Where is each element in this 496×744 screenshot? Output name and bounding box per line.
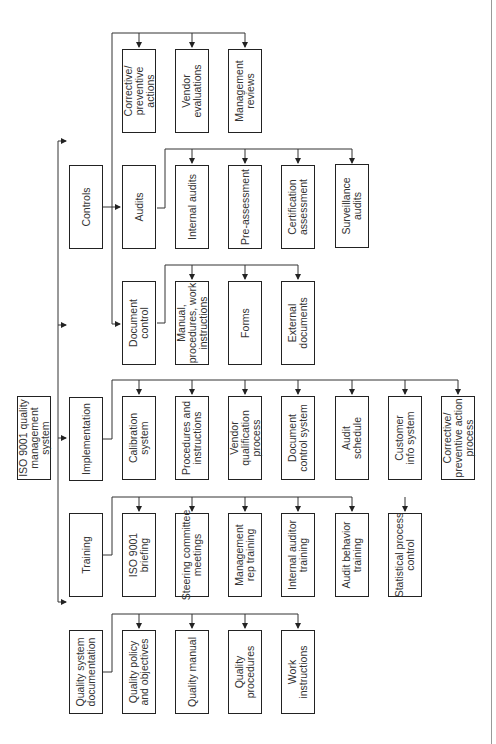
node-quality-manual: Quality manual [175, 630, 209, 714]
node-corrective-preventive-actions: Corrective/ preventive actions [122, 49, 156, 133]
node-quality-policy: Quality policy and objectives [122, 630, 156, 714]
node-label: Audit behavior training [341, 521, 363, 588]
node-label: Quality procedures [234, 646, 256, 699]
node-quality-procedures: Quality procedures [228, 630, 262, 714]
node-label: Management rep training [234, 524, 256, 585]
node-label: Corrective/ preventive action process [442, 398, 475, 477]
node-audit-behavior-training: Audit behavior training [335, 513, 369, 597]
node-label: Internal auditor training [287, 520, 309, 590]
node-label: Internal audits [187, 174, 198, 240]
node-audits: Audits [122, 165, 156, 249]
node-root: ISO 9001 quality management system [17, 396, 51, 480]
node-label: Pre-assessment [240, 169, 251, 245]
node-label: Surveillance audits [341, 177, 363, 234]
node-label: Document control system [287, 404, 309, 472]
node-label: Audits [134, 192, 145, 221]
node-iso-briefing: ISO 9001 briefing [122, 513, 156, 597]
node-work-instructions: Work instructions [281, 630, 315, 714]
node-label: Quality policy and objectives [128, 638, 150, 705]
node-document-control-system: Document control system [281, 396, 315, 480]
node-vendor-qualification: Vendor qualification process [228, 396, 262, 480]
node-label: ISO 9001 quality management system [18, 399, 51, 477]
node-training: Training [69, 513, 103, 597]
node-external-documents: External documents [281, 281, 315, 365]
page-edge-line [491, 0, 492, 744]
node-label: Certification assessment [287, 179, 309, 235]
org-chart-diagram: ISO 9001 quality management system Quali… [0, 0, 496, 744]
node-controls: Controls [69, 165, 103, 249]
node-management-reviews: Management reviews [228, 49, 262, 133]
node-label: Management reviews [234, 60, 256, 121]
node-quality-system-documentation: Quality system documentation [69, 630, 103, 714]
node-audit-schedule: Audit schedule [335, 396, 369, 480]
node-calibration-system: Calibration system [122, 396, 156, 480]
node-management-rep-training: Management rep training [228, 513, 262, 597]
node-label: Audit schedule [341, 417, 363, 459]
node-label: External documents [287, 297, 309, 348]
node-surveillance-audits: Surveillance audits [335, 164, 369, 248]
node-label: Document control [128, 299, 150, 347]
node-label: Statistical process control [394, 513, 416, 598]
node-customer-info-system: Customer info system [388, 396, 422, 480]
node-steering-committee: Steering committee meetings [175, 513, 209, 597]
node-pre-assessment: Pre-assessment [228, 165, 262, 249]
node-document-control: Document control [122, 281, 156, 365]
node-certification-assessment: Certification assessment [281, 165, 315, 249]
node-implementation: Implementation [69, 397, 103, 481]
node-label: Calibration system [128, 413, 150, 463]
node-internal-auditor-training: Internal auditor training [281, 513, 315, 597]
node-corrective-preventive-process: Corrective/ preventive action process [441, 396, 475, 480]
node-internal-audits: Internal audits [175, 165, 209, 249]
node-manual-procedures: Manual, procedures, work instructions [175, 281, 209, 365]
node-label: ISO 9001 briefing [128, 533, 150, 577]
node-label: Quality system documentation [75, 638, 97, 707]
node-label: Work instructions [287, 645, 309, 698]
node-label: Vendor qualification process [229, 410, 262, 465]
node-label: Corrective/ preventive actions [123, 66, 156, 117]
node-statistical-process-control: Statistical process control [388, 513, 422, 597]
node-label: Controls [81, 187, 92, 226]
node-label: Implementation [81, 403, 92, 475]
node-vendor-evaluations: Vendor evaluations [175, 49, 209, 133]
node-label: Customer info system [394, 411, 416, 464]
node-label: Vendor evaluations [181, 64, 203, 117]
node-label: Quality manual [187, 637, 198, 707]
node-label: Steering committee meetings [181, 510, 203, 600]
node-label: Procedures and instructions [181, 401, 203, 475]
node-forms: Forms [228, 281, 262, 365]
node-label: Training [81, 536, 92, 574]
node-label: Forms [240, 308, 251, 338]
node-procedures-instructions: Procedures and instructions [175, 396, 209, 480]
node-label: Manual, procedures, work instructions [176, 283, 209, 364]
